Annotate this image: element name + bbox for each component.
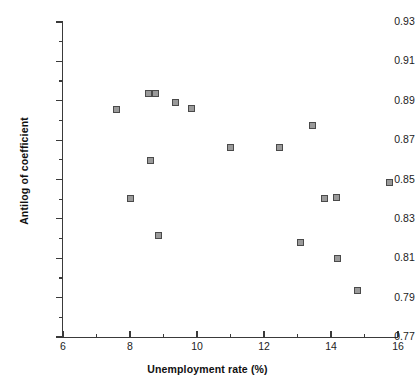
x-axis-title: Unemployment rate (%) xyxy=(0,363,415,375)
y-axis-title: Antilog of coefficient xyxy=(18,71,30,271)
y-tick-minor xyxy=(59,238,63,239)
data-point xyxy=(309,122,316,129)
data-point xyxy=(334,255,341,262)
data-point xyxy=(152,90,159,97)
data-point xyxy=(227,144,234,151)
data-point xyxy=(386,179,393,186)
data-point xyxy=(297,239,304,246)
y-tick-minor xyxy=(59,317,63,318)
y-tick-minor xyxy=(59,277,63,278)
plot-area xyxy=(63,22,398,337)
data-point xyxy=(155,232,162,239)
y-tick-minor xyxy=(59,41,63,42)
x-tick-label: 6 xyxy=(48,340,78,352)
y-tick-major xyxy=(56,218,62,219)
y-tick-major xyxy=(56,100,62,101)
x-tick-label: 10 xyxy=(182,340,212,352)
y-tick-minor xyxy=(59,199,63,200)
data-point xyxy=(172,99,179,106)
y-tick-minor xyxy=(59,159,63,160)
y-tick-major xyxy=(56,21,62,22)
y-tick-major xyxy=(56,179,62,180)
y-tick-major xyxy=(56,61,62,62)
data-point xyxy=(321,195,328,202)
data-point xyxy=(127,195,134,202)
y-tick-major xyxy=(56,140,62,141)
scatter-chart: 0.930.910.890.870.850.830.810.790.776810… xyxy=(0,0,415,387)
x-tick-label: 8 xyxy=(115,340,145,352)
y-tick-major xyxy=(56,297,62,298)
data-point xyxy=(188,105,195,112)
data-point xyxy=(354,287,361,294)
y-tick-minor xyxy=(59,120,63,121)
x-tick-label: 14 xyxy=(316,340,346,352)
data-point xyxy=(113,106,120,113)
data-point xyxy=(147,157,154,164)
data-point xyxy=(333,194,340,201)
y-tick-major xyxy=(56,258,62,259)
x-tick-label: 16 xyxy=(383,340,413,352)
y-tick-minor xyxy=(59,80,63,81)
x-tick-label: 12 xyxy=(249,340,279,352)
y-tick-major xyxy=(56,336,62,337)
data-point xyxy=(276,144,283,151)
